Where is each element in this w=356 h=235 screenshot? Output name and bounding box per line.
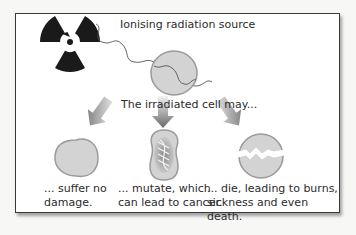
irradiated-cell bbox=[151, 51, 197, 95]
intro-label: The irradiated cell may... bbox=[121, 98, 257, 111]
outcome-die: ... die, leading to burns, sickness and … bbox=[207, 182, 339, 224]
outcome-line: ... suffer no bbox=[44, 182, 107, 196]
radiation-trefoil-icon bbox=[40, 16, 100, 72]
source-label: Ionising radiation source bbox=[120, 18, 255, 31]
outcome-line: damage. bbox=[44, 196, 107, 210]
undamaged-cell bbox=[55, 139, 98, 176]
outcome-line: ... die, leading to burns, bbox=[207, 182, 339, 196]
down-arrow-left bbox=[81, 93, 117, 132]
outcome-line: sickness and even death. bbox=[207, 196, 339, 224]
outcome-no-damage: ... suffer no damage. bbox=[44, 182, 107, 210]
mutated-cell bbox=[150, 130, 178, 180]
dying-cell bbox=[238, 134, 284, 178]
diagram-frame: Ionising radiation source The irradiated… bbox=[15, 13, 340, 213]
